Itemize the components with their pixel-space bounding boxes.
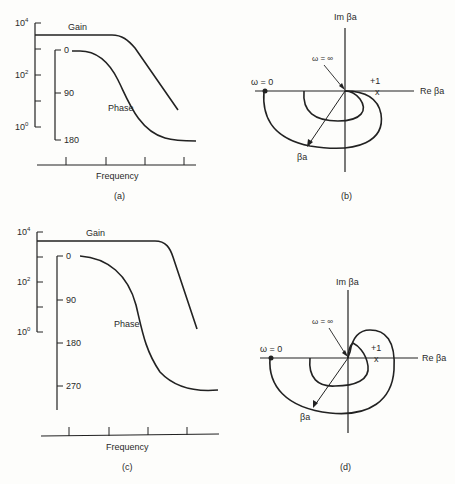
gain-tick-label: 100 <box>15 121 29 132</box>
gain-tick-label: 100 <box>17 326 31 337</box>
omega-infinity-label: ω = ∞ <box>312 54 333 63</box>
panel-caption: (a) <box>114 191 125 201</box>
gain-curve <box>35 35 178 110</box>
omega-zero-label: ω = 0 <box>251 77 273 87</box>
phase-tick-label: 180 <box>64 135 79 145</box>
frequency-axis <box>41 434 219 436</box>
panel-caption: (b) <box>341 191 352 201</box>
omega-infinity-pointer <box>324 65 343 88</box>
frequency-label: Frequency <box>96 171 139 181</box>
vector-label: βa <box>300 412 310 422</box>
re-axis-label: Re βa <box>420 86 444 96</box>
beta-a-vector <box>309 91 345 144</box>
gain-curve <box>37 241 197 329</box>
plus-one-label: +1 <box>371 343 381 353</box>
omega-infinity-pointer <box>329 328 346 355</box>
phase-tick-label: 180 <box>66 338 81 348</box>
gain-tick-label: 102 <box>17 276 31 287</box>
phase-curve <box>80 256 218 390</box>
phase-tick-label: 270 <box>66 381 81 391</box>
panel-b-nyquist-plot: Im βa Re βa ω = 0 ω = ∞ +1 x βa (b) <box>251 12 444 201</box>
panel-d-nyquist-plot: Im βa Re βa ω = 0 ω = ∞ +1 x βa (d) <box>260 277 446 472</box>
phase-curve <box>72 51 196 141</box>
panel-caption: (d) <box>340 462 351 472</box>
re-axis-label: Re βa <box>422 353 446 363</box>
plus-one-label: +1 <box>370 76 380 86</box>
phase-label: Phase <box>114 319 140 329</box>
frequency-label: Frequency <box>106 442 149 452</box>
critical-point-marker: x <box>374 354 379 364</box>
gain-tick-label: 104 <box>15 17 29 28</box>
critical-point-marker: x <box>375 87 380 97</box>
phase-tick-label: 0 <box>66 251 71 261</box>
phase-tick-label: 90 <box>66 295 76 305</box>
panel-caption: (c) <box>122 462 133 472</box>
gain-label: Gain <box>86 228 105 238</box>
phase-tick-label: 90 <box>64 88 74 98</box>
panel-c-bode-plot: 104 102 100 0 90 180 270 Gain Phase Freq… <box>17 226 219 472</box>
gain-label: Gain <box>68 22 87 32</box>
phase-tick-label: 0 <box>64 45 69 55</box>
vector-label: βa <box>297 152 307 162</box>
nyquist-locus-inner <box>310 343 368 386</box>
panel-a-bode-plot: 104 102 100 0 90 180 Gain Phase Frequenc… <box>15 17 196 201</box>
gain-tick-label: 102 <box>15 69 29 80</box>
gain-tick-label: 104 <box>17 226 31 237</box>
omega-infinity-label: ω = ∞ <box>312 317 333 326</box>
nyquist-locus-inner <box>304 91 364 121</box>
beta-a-vector <box>315 358 348 405</box>
omega-zero-label: ω = 0 <box>260 344 282 354</box>
im-axis-label: Im βa <box>334 12 357 22</box>
phase-label: Phase <box>108 103 134 113</box>
im-axis-label: Im βa <box>336 277 359 287</box>
